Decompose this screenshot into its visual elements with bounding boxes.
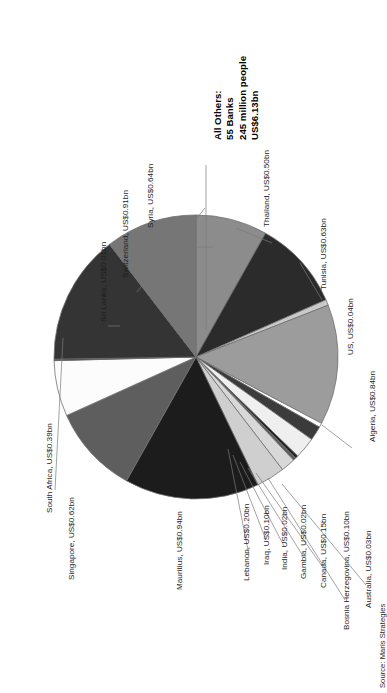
leader-line-algeria bbox=[322, 425, 352, 448]
label-syria: Syria, US$0.64bn bbox=[147, 164, 155, 228]
label-south-africa: South Africa, US$0.39bn bbox=[46, 423, 54, 513]
label-tunisia: Tunisia, US$0.63bn bbox=[320, 218, 328, 290]
label-bosnia-herzegovina: Bosnia Herzegovina, US$0.10bn bbox=[343, 511, 351, 630]
callout-line-1: All Others: bbox=[212, 56, 224, 140]
callout-line-4: US$6.13bn bbox=[249, 56, 261, 140]
all-others-callout: All Others: 55 Banks 245 million people … bbox=[212, 56, 261, 140]
callout-line-3: 245 million people bbox=[237, 56, 249, 140]
label-algeria: Algeria, US$0.84bn bbox=[369, 371, 377, 442]
label-sri-lanka: Sri Lanka, US$0.01bn bbox=[100, 242, 108, 322]
label-iraq: Iraq, US$0.10bn bbox=[263, 505, 271, 565]
label-thailand: Thailand, US$0.50bn bbox=[263, 150, 271, 227]
label-gambia: Gambia, US$0.02bn bbox=[300, 505, 308, 579]
leader-line-gambia bbox=[248, 468, 303, 556]
label-singapore: Singapore, US$0.62bn bbox=[68, 497, 76, 580]
label-australia: Australia, US$0.03bn bbox=[365, 531, 373, 609]
pie-slices-group bbox=[54, 215, 338, 499]
label-mauritius: Mauritius, US$0.94bn bbox=[176, 511, 184, 590]
label-lebanon: Lebanon, US$0.20bn bbox=[243, 504, 251, 581]
label-canada: Canada, US$0.15bn bbox=[320, 514, 328, 588]
source-note: Source: Maris Strategies bbox=[379, 604, 387, 688]
callout-line-2: 55 Banks bbox=[224, 56, 236, 140]
label-india: India, US$0.02bn bbox=[281, 507, 289, 570]
label-us: US, US$0.04bn bbox=[347, 298, 355, 355]
label-switzerland: Switzerland, US$0.91bn bbox=[122, 190, 130, 278]
